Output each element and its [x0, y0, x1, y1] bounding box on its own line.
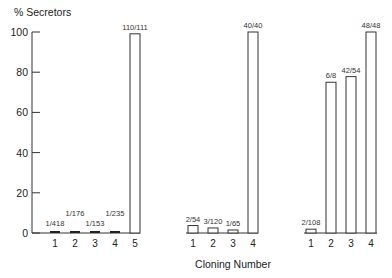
x-tick-label: 4 [112, 238, 118, 249]
bar [90, 231, 100, 233]
x-tick-label: 2 [72, 238, 78, 249]
y-tick-label: 60 [16, 106, 28, 118]
bar [228, 230, 238, 233]
y-tick-label: 0 [22, 227, 28, 239]
y-tick-label: 40 [16, 147, 28, 159]
bar-value-label: 2/54 [186, 215, 201, 224]
bar-value-label: 2/108 [302, 218, 321, 227]
bar-value-label: 1/418 [46, 219, 65, 228]
x-tick-label: 5 [132, 238, 138, 249]
x-tick-label: 3 [230, 238, 236, 249]
bar [50, 231, 60, 233]
bar-value-label: 40/40 [244, 21, 263, 30]
bar-value-label: 1/176 [66, 209, 85, 218]
bar-chart: % Secretors0204060801001/41811/17621/153… [0, 0, 392, 278]
bar [248, 32, 258, 233]
x-tick-label: 1 [190, 238, 196, 249]
bar-value-label: 48/48 [362, 21, 381, 30]
x-tick-label: 4 [250, 238, 256, 249]
bar-value-label: 110/111 [122, 23, 147, 32]
bar [326, 82, 336, 233]
x-tick-label: 2 [210, 238, 216, 249]
bar [130, 34, 140, 233]
y-tick-label: 100 [10, 26, 28, 38]
x-axis-title: Cloning Number [195, 258, 271, 270]
y-tick-label: 80 [16, 66, 28, 78]
bar [208, 228, 218, 233]
bar [188, 226, 198, 233]
bar-value-label: 1/153 [86, 219, 105, 228]
x-tick-label: 1 [308, 238, 314, 249]
bar-value-label: 1/65 [226, 219, 241, 228]
bar [346, 77, 356, 233]
x-tick-label: 4 [368, 238, 374, 249]
bar-value-label: 3/120 [204, 217, 223, 226]
x-tick-label: 2 [328, 238, 334, 249]
bar [110, 231, 120, 233]
y-tick-label: 20 [16, 187, 28, 199]
x-tick-label: 3 [92, 238, 98, 249]
bar-value-label: 6/8 [326, 71, 336, 80]
x-tick-label: 1 [52, 238, 58, 249]
y-axis-title: % Secretors [14, 6, 71, 18]
bar [70, 231, 80, 233]
bar [306, 229, 316, 233]
x-tick-label: 3 [348, 238, 354, 249]
bar-value-label: 42/54 [342, 66, 361, 75]
bar [366, 32, 376, 233]
bar-value-label: 1/235 [106, 209, 125, 218]
